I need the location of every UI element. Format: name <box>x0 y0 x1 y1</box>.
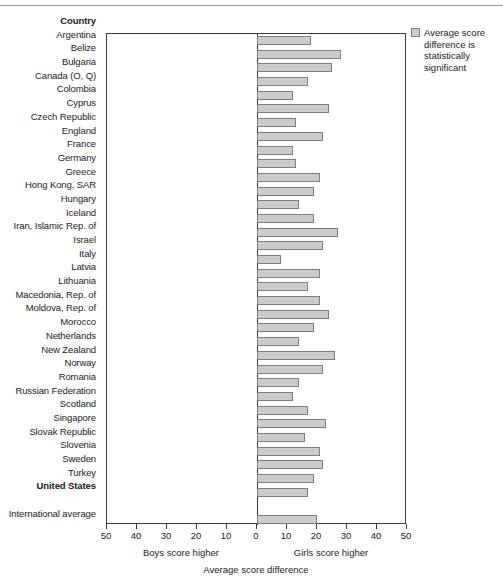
bar <box>257 214 314 223</box>
country-label: Netherlands <box>0 329 100 343</box>
bar-row <box>107 486 405 500</box>
bar-row <box>107 239 405 253</box>
bar-row <box>107 61 405 75</box>
country-label: Israel <box>0 233 100 247</box>
bar <box>257 91 293 100</box>
x-tick <box>166 524 167 529</box>
country-column-header: Country <box>0 14 100 28</box>
country-label: Cyprus <box>0 96 100 110</box>
legend-swatch-icon <box>411 28 420 37</box>
bar <box>257 282 308 291</box>
x-tick <box>256 524 257 529</box>
x-tick-label: 30 <box>151 530 181 541</box>
label-spacer <box>0 493 100 507</box>
bar <box>257 406 308 415</box>
country-label: Norway <box>0 356 100 370</box>
bar <box>257 310 329 319</box>
top-rule <box>0 5 503 6</box>
country-label: Russian Federation <box>0 384 100 398</box>
bar <box>257 419 326 428</box>
bar-row <box>107 267 405 281</box>
bar-row <box>107 144 405 158</box>
bar <box>257 77 308 86</box>
bar <box>257 269 320 278</box>
bar-row <box>107 431 405 445</box>
bar <box>257 63 332 72</box>
bar <box>257 132 323 141</box>
legend: Average score difference is statisticall… <box>411 27 503 73</box>
bar <box>257 159 296 168</box>
bar-row <box>107 185 405 199</box>
bar-row <box>107 130 405 144</box>
country-label: Hong Kong, SAR <box>0 178 100 192</box>
bar-row <box>107 321 405 335</box>
bar-row <box>107 308 405 322</box>
bar <box>257 36 311 45</box>
country-label: Iceland <box>0 206 100 220</box>
bar-row <box>107 363 405 377</box>
bar-row <box>107 349 405 363</box>
bar <box>257 296 320 305</box>
bar <box>257 241 323 250</box>
x-tick-label: 50 <box>91 530 121 541</box>
country-label: Turkey <box>0 466 100 480</box>
legend-label: Average score difference is statisticall… <box>424 27 503 73</box>
country-label: Macedonia, Rep. of <box>0 288 100 302</box>
x-tick-label: 50 <box>391 530 421 541</box>
country-label: United States <box>0 479 100 493</box>
bar-row <box>107 157 405 171</box>
bar <box>257 173 320 182</box>
bar-row <box>107 280 405 294</box>
country-label: Scotland <box>0 397 100 411</box>
bar <box>257 351 335 360</box>
country-label: Canada (O, Q) <box>0 69 100 83</box>
country-label: Germany <box>0 151 100 165</box>
country-label: Argentina <box>0 28 100 42</box>
bar-row <box>107 212 405 226</box>
bar-row <box>107 75 405 89</box>
country-label: England <box>0 124 100 138</box>
x-tick <box>136 524 137 529</box>
bar-row <box>107 335 405 349</box>
reading-score-gender-gap-chart: Country ArgentinaBelizeBulgariaCanada (O… <box>0 0 503 587</box>
bar <box>257 146 293 155</box>
x-tick-label: 10 <box>211 530 241 541</box>
bar <box>257 337 299 346</box>
country-label: Italy <box>0 247 100 261</box>
bar <box>257 187 314 196</box>
x-tick <box>286 524 287 529</box>
x-axis-tick-labels: 504030201001020304050 <box>0 530 503 544</box>
x-tick-label: 10 <box>271 530 301 541</box>
bar <box>257 323 314 332</box>
country-label: Morocco <box>0 315 100 329</box>
x-tick <box>106 524 107 529</box>
bar-row <box>107 404 405 418</box>
bar <box>257 378 299 387</box>
country-label: Slovak Republic <box>0 425 100 439</box>
x-tick <box>376 524 377 529</box>
bar-row <box>107 445 405 459</box>
country-label: Colombia <box>0 82 100 96</box>
bar-row <box>107 34 405 48</box>
bar <box>257 104 329 113</box>
x-tick-label: 40 <box>121 530 151 541</box>
x-tick <box>346 524 347 529</box>
bar <box>257 433 305 442</box>
bar-row <box>107 171 405 185</box>
bar-row <box>107 226 405 240</box>
bar <box>257 255 281 264</box>
bar <box>257 474 314 483</box>
bar <box>257 118 296 127</box>
international-average-bar <box>257 515 317 524</box>
country-label: Czech Republic <box>0 110 100 124</box>
plot-area <box>106 33 406 524</box>
x-tick <box>226 524 227 529</box>
bar <box>257 447 320 456</box>
country-label: Romania <box>0 370 100 384</box>
x-tick-label: 0 <box>241 530 271 541</box>
country-label: Greece <box>0 165 100 179</box>
x-axis-title: Average score difference <box>106 564 406 575</box>
x-tick <box>196 524 197 529</box>
country-label: New Zealand <box>0 343 100 357</box>
international-average-label: International average <box>0 507 100 521</box>
